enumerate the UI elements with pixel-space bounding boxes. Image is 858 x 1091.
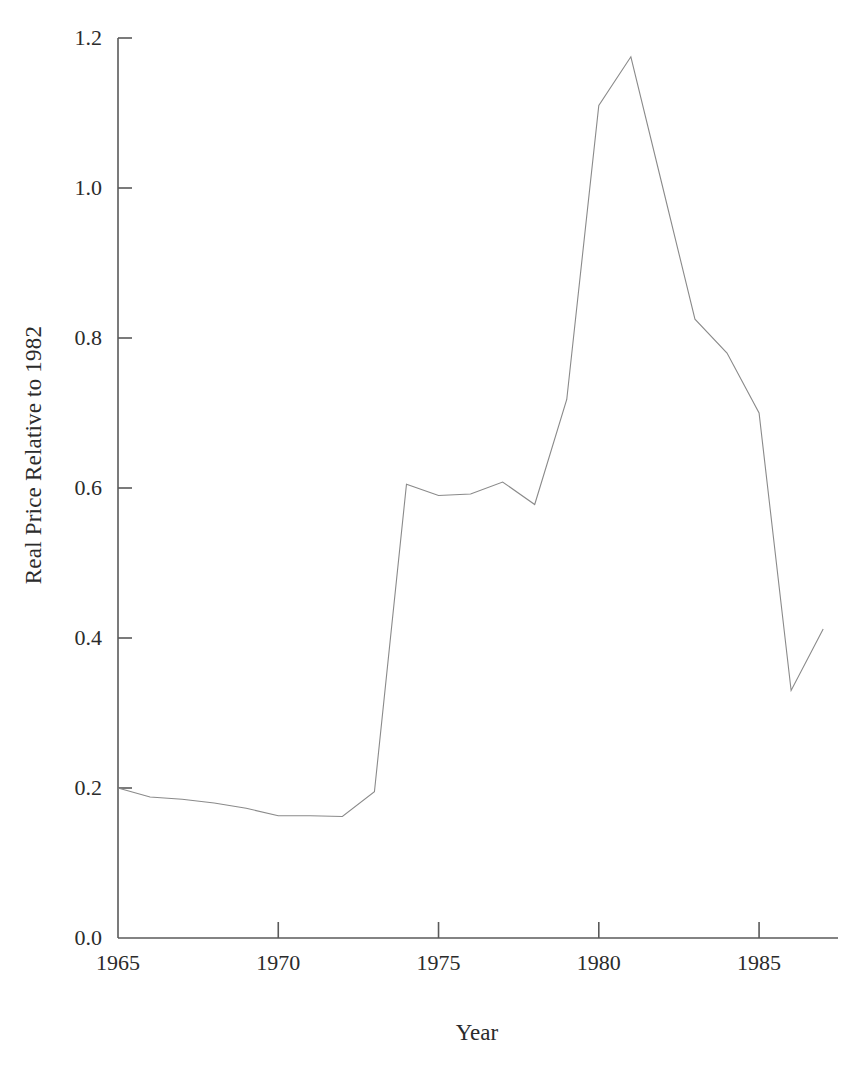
x-axis-title: Year <box>118 1020 836 1046</box>
chart-figure: Real Price Relative to 1982 0.00.20.40.6… <box>0 0 858 1091</box>
axes <box>118 38 838 938</box>
data-series-line <box>118 57 823 817</box>
plot-area <box>0 0 858 1091</box>
